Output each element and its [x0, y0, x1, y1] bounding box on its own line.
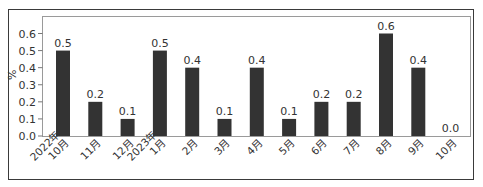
y-tick-label: 0.2 [19, 96, 37, 109]
value-label: 0.2 [313, 88, 331, 101]
bar [250, 68, 264, 136]
svg-text:4月: 4月 [244, 137, 264, 157]
x-tick-label: 7月 [341, 137, 361, 157]
bar [411, 68, 425, 136]
bar [282, 119, 296, 136]
y-tick-label: 0.4 [19, 62, 37, 75]
x-tick-label: 6月 [309, 137, 329, 157]
bar [314, 102, 328, 136]
svg-text:2月: 2月 [179, 137, 199, 157]
x-tick-label: 2月 [179, 137, 199, 157]
bar [88, 102, 102, 136]
svg-text:10月: 10月 [433, 137, 458, 162]
x-tick-label: 5月 [276, 137, 296, 157]
x-tick-label: 3月 [212, 137, 232, 157]
bar-chart: 0.00.10.20.30.40.50.6 % 0.50.20.10.50.40… [0, 0, 483, 187]
y-tick-label: 0.0 [19, 130, 37, 143]
bar [347, 102, 361, 136]
svg-text:3月: 3月 [212, 137, 232, 157]
svg-text:5月: 5月 [276, 137, 296, 157]
value-label: 0.4 [248, 54, 266, 67]
x-tick-label: 11月 [78, 137, 103, 162]
svg-text:7月: 7月 [341, 137, 361, 157]
bar [379, 34, 393, 137]
value-label: 0.5 [151, 37, 169, 50]
svg-text:9月: 9月 [405, 137, 425, 157]
bar [121, 119, 135, 136]
value-label: 0.6 [377, 20, 395, 33]
y-axis-label: % [6, 70, 19, 80]
svg-text:11月: 11月 [78, 137, 103, 162]
y-tick-label: 0.5 [19, 45, 37, 58]
x-tick-label: 9月 [405, 137, 425, 157]
y-tick-label: 0.3 [19, 79, 37, 92]
y-axis: 0.00.10.20.30.40.50.6 [19, 28, 43, 144]
bar [56, 51, 70, 136]
bars: 0.50.20.10.50.40.10.40.10.20.20.60.40.0 [54, 20, 459, 137]
x-tick-label: 4月 [244, 137, 264, 157]
y-tick-label: 0.1 [19, 113, 37, 126]
value-label: 0.1 [216, 105, 234, 118]
svg-text:6月: 6月 [309, 137, 329, 157]
value-label: 0.4 [410, 54, 428, 67]
value-label: 0.2 [87, 88, 105, 101]
svg-text:8月: 8月 [373, 137, 393, 157]
x-tick-label: 8月 [373, 137, 393, 157]
x-tick-label: 10月 [433, 137, 458, 162]
y-tick-label: 0.6 [19, 28, 37, 41]
value-label: 0.0 [442, 122, 460, 135]
value-label: 0.1 [119, 105, 137, 118]
value-label: 0.2 [345, 88, 363, 101]
value-label: 0.5 [54, 37, 72, 50]
value-label: 0.1 [280, 105, 298, 118]
value-label: 0.4 [183, 54, 201, 67]
bar [218, 119, 232, 136]
bar [153, 51, 167, 136]
bar [185, 68, 199, 136]
